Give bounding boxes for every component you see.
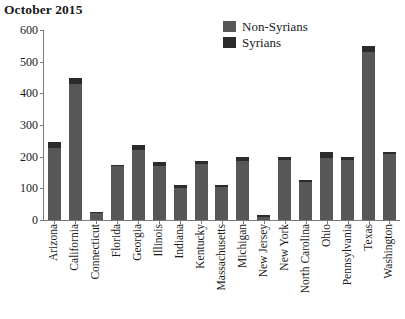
x-axis-label-slot: California — [65, 224, 86, 318]
bar-group[interactable] — [86, 30, 107, 220]
bar-stack[interactable] — [69, 78, 82, 220]
bar-segment-non-syrians[interactable] — [236, 161, 249, 220]
x-axis-labels: ArizonaCaliforniaConnecticutFloridaGeorg… — [44, 224, 400, 318]
x-axis-label-slot: Ohio — [316, 224, 337, 318]
bar-group[interactable] — [44, 30, 65, 220]
x-axis-label: Texas — [363, 224, 375, 251]
bar-stack[interactable] — [278, 157, 291, 220]
bar-stack[interactable] — [132, 145, 145, 220]
bar-stack[interactable] — [383, 152, 396, 220]
bar-group[interactable] — [191, 30, 212, 220]
x-axis-label-slot: Texas — [358, 224, 379, 318]
x-axis-label-slot: Florida — [107, 224, 128, 318]
bar-group[interactable] — [337, 30, 358, 220]
x-axis-label: Arizona — [49, 224, 61, 261]
bar-segment-non-syrians[interactable] — [278, 160, 291, 220]
bar-stack[interactable] — [341, 157, 354, 220]
x-axis-label-slot: Kentucky — [191, 224, 212, 318]
y-axis-tick-label: 100 — [20, 182, 38, 194]
bar-group[interactable] — [170, 30, 191, 220]
bar-group[interactable] — [379, 30, 400, 220]
bar-series-group — [44, 30, 400, 220]
y-axis-tick-label: 500 — [20, 56, 38, 68]
x-axis-label: Georgia — [132, 224, 144, 261]
x-axis-label: Pennsylvania — [342, 224, 354, 285]
x-axis-label-slot: North Carolina — [295, 224, 316, 318]
x-axis-label-slot: New York — [274, 224, 295, 318]
x-axis-label: Indiana — [174, 224, 186, 258]
x-axis-label: Michigan — [237, 224, 249, 268]
x-axis-label-slot: Illinois — [149, 224, 170, 318]
y-axis-tick-label: 400 — [20, 87, 38, 99]
bar-stack[interactable] — [236, 157, 249, 220]
bar-group[interactable] — [149, 30, 170, 220]
bar-stack[interactable] — [195, 161, 208, 220]
bar-segment-non-syrians[interactable] — [174, 188, 187, 220]
bar-group[interactable] — [295, 30, 316, 220]
x-axis-label-slot: Georgia — [128, 224, 149, 318]
bar-stack[interactable] — [174, 185, 187, 220]
bar-stack[interactable] — [90, 212, 103, 220]
bar-segment-non-syrians[interactable] — [362, 52, 375, 220]
bar-segment-non-syrians[interactable] — [195, 164, 208, 220]
y-axis-tick-label: 0 — [32, 214, 38, 226]
bar-chart: October 2015 Non-Syrians Syrians 0100200… — [0, 0, 405, 319]
bar-group[interactable] — [212, 30, 233, 220]
bar-group[interactable] — [316, 30, 337, 220]
bar-segment-non-syrians[interactable] — [48, 148, 61, 220]
x-axis-label-slot: New Jersey — [253, 224, 274, 318]
x-axis-label: New York — [279, 224, 291, 271]
bar-group[interactable] — [253, 30, 274, 220]
bar-segment-non-syrians[interactable] — [69, 84, 82, 220]
bar-stack[interactable] — [362, 46, 375, 220]
x-axis-label-slot: Indiana — [170, 224, 191, 318]
bar-segment-non-syrians[interactable] — [111, 166, 124, 220]
bar-segment-non-syrians[interactable] — [215, 187, 228, 220]
bar-group[interactable] — [232, 30, 253, 220]
bar-segment-non-syrians[interactable] — [383, 154, 396, 221]
x-axis-label: North Carolina — [300, 224, 312, 293]
bar-segment-non-syrians[interactable] — [299, 182, 312, 220]
x-axis-label: Ohio — [321, 224, 333, 247]
y-axis-tick-label: 300 — [20, 119, 38, 131]
bar-stack[interactable] — [111, 165, 124, 220]
bar-stack[interactable] — [153, 162, 166, 220]
x-axis-label-slot: Connecticut — [86, 224, 107, 318]
x-axis-label: Florida — [112, 224, 124, 257]
bar-group[interactable] — [358, 30, 379, 220]
x-axis-label: New Jersey — [258, 224, 270, 277]
y-axis-tick-label: 200 — [20, 151, 38, 163]
bar-group[interactable] — [65, 30, 86, 220]
bar-segment-non-syrians[interactable] — [153, 166, 166, 220]
bar-segment-non-syrians[interactable] — [132, 150, 145, 220]
bar-group[interactable] — [128, 30, 149, 220]
bar-group[interactable] — [274, 30, 295, 220]
bar-segment-non-syrians[interactable] — [320, 158, 333, 220]
bar-stack[interactable] — [299, 180, 312, 220]
bar-stack[interactable] — [48, 142, 61, 220]
x-axis-label: Kentucky — [195, 224, 207, 269]
x-axis-label-slot: Washington — [379, 224, 400, 318]
x-axis-label: Massachusetts — [216, 224, 228, 290]
x-axis-label-slot: Michigan — [232, 224, 253, 318]
x-axis-label-slot: Arizona — [44, 224, 65, 318]
bar-group[interactable] — [107, 30, 128, 220]
plot-area: 0100200300400500600 — [44, 30, 400, 220]
x-axis-label: California — [70, 224, 82, 271]
bar-stack[interactable] — [320, 152, 333, 220]
x-axis-label: Connecticut — [91, 224, 103, 280]
x-axis-label-slot: Pennsylvania — [337, 224, 358, 318]
y-axis-tick-mark — [40, 220, 44, 221]
x-axis-label: Washington — [384, 224, 396, 279]
bar-segment-non-syrians[interactable] — [341, 160, 354, 220]
bar-segment-non-syrians[interactable] — [90, 213, 103, 220]
x-axis-label: Illinois — [153, 224, 165, 257]
x-axis-label-slot: Massachusetts — [212, 224, 233, 318]
bar-stack[interactable] — [215, 185, 228, 220]
chart-title: October 2015 — [4, 2, 83, 18]
y-axis-tick-label: 600 — [20, 24, 38, 36]
